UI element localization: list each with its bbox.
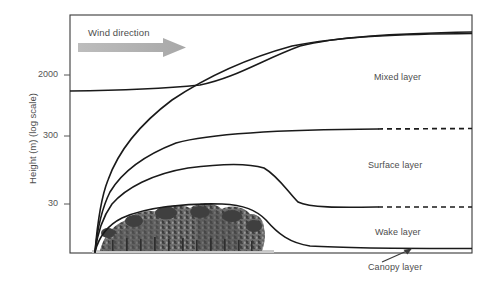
diagram-canvas <box>0 0 497 287</box>
y-axis-ticks <box>64 75 70 204</box>
canopy-layer-label: Canopy layer <box>368 262 422 272</box>
wind-direction-label: Wind direction <box>88 27 150 38</box>
wake-layer-label: Wake layer <box>375 227 421 237</box>
surface-layer-label: Surface layer <box>368 160 422 170</box>
boundary-layer-diagram: Height (m) (log scale) 2000 300 30 Wind … <box>0 0 497 287</box>
y-tick-label-2000: 2000 <box>18 69 58 79</box>
mixed-layer-label: Mixed layer <box>374 72 421 82</box>
y-tick-label-300: 300 <box>18 130 58 140</box>
y-tick-label-30: 30 <box>18 198 58 208</box>
